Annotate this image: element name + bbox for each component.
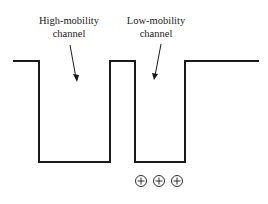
positive-charge-icon <box>154 176 165 187</box>
band-diagram <box>0 0 268 204</box>
potential-profile-line <box>13 61 259 162</box>
arrow-high-mobility <box>70 45 79 82</box>
arrow-low-mobility <box>152 44 161 80</box>
positive-charge-icon <box>136 176 147 187</box>
charge-symbols <box>136 176 183 187</box>
positive-charge-icon <box>172 176 183 187</box>
